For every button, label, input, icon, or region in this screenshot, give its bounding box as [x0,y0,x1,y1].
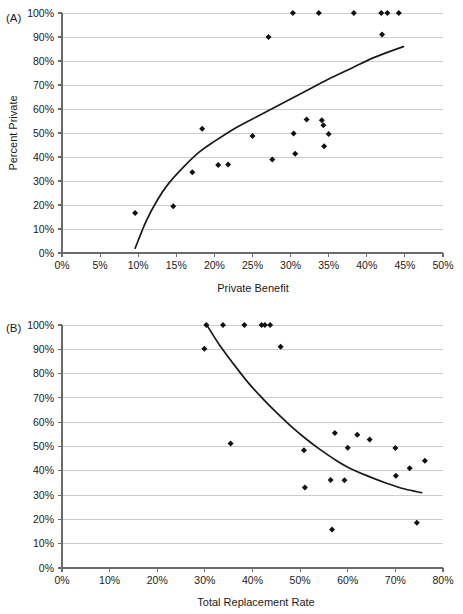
data-point-2 [189,169,195,175]
data-point-5 [225,161,231,167]
data-point-3 [228,441,234,447]
xtick-label-20: 20% [204,259,225,271]
xtick-label-10: 10% [128,259,149,271]
panel-b-trendline [207,325,422,493]
ytick-label-20: 20% [33,199,54,211]
data-point-18 [392,445,398,451]
data-point-4 [241,322,247,328]
data-point-3 [199,126,205,132]
xtick-label-50: 50% [432,259,453,271]
panel-a-xaxis-title: Private Benefit [217,282,289,294]
data-point-2 [220,322,226,328]
panel-a: 0%10%20%30%40%50%60%70%80%90%100% 0%5%10… [0,0,463,300]
panel-b-tag: (B) [6,322,22,334]
ytick-label-70: 70% [33,392,54,404]
data-point-7 [266,34,272,40]
data-point-7 [267,322,273,328]
xtick-label-20: 20% [147,574,168,586]
data-point-17 [326,131,332,137]
panel-b-datapoints [201,322,428,533]
ytick-label-80: 80% [33,367,54,379]
xtick-label-80: 80% [432,574,453,586]
data-point-13 [316,10,322,16]
ytick-label-60: 60% [33,103,54,115]
data-point-19 [393,473,399,479]
data-point-14 [341,477,347,483]
data-point-21 [414,520,420,526]
data-point-6 [262,322,268,328]
trend-curve [207,325,422,493]
xtick-label-50: 50% [290,574,311,586]
panel-b-xtick-labels: 0%10%20%30%40%50%60%70%80% [54,574,453,586]
panel-a-plot: 0%10%20%30%40%50%60%70%80%90%100% 0%5%10… [0,0,463,300]
data-point-1 [170,203,176,209]
data-point-16 [321,143,327,149]
data-point-12 [329,527,335,533]
data-point-6 [250,133,256,139]
ytick-label-50: 50% [33,440,54,452]
data-point-16 [354,432,360,438]
panel-a-trendline [135,47,403,249]
ytick-label-40: 40% [33,464,54,476]
panel-a-axes [58,13,443,257]
panel-b-axes [58,325,443,572]
xtick-label-0: 0% [54,259,69,271]
data-point-15 [320,122,326,128]
xtick-label-30: 30% [194,574,215,586]
data-point-22 [422,458,428,464]
data-point-11 [328,477,334,483]
data-point-21 [384,10,390,16]
xtick-label-10: 10% [99,574,120,586]
ytick-label-90: 90% [33,31,54,43]
data-point-9 [290,10,296,16]
xtick-label-60: 60% [337,574,358,586]
ytick-label-80: 80% [33,55,54,67]
ytick-label-30: 30% [33,175,54,187]
ytick-label-40: 40% [33,151,54,163]
data-point-11 [292,151,298,157]
xtick-label-40: 40% [242,574,263,586]
xtick-label-40: 40% [356,259,377,271]
panel-a-gridlines [62,13,443,229]
data-point-10 [291,130,297,136]
panel-a-datapoints [132,10,402,216]
trend-curve [135,47,403,249]
data-point-15 [345,445,351,451]
data-point-12 [304,117,310,123]
figure-container: 0%10%20%30%40%50%60%70%80%90%100% 0%5%10… [0,0,463,614]
data-point-17 [367,436,373,442]
ytick-label-90: 90% [33,343,54,355]
xtick-label-25: 25% [242,259,263,271]
data-point-0 [132,210,138,216]
xtick-label-35: 35% [318,259,339,271]
ytick-label-0: 0% [39,247,54,259]
data-point-4 [215,162,221,168]
xtick-label-0: 0% [54,574,69,586]
panel-b-gridlines [62,325,443,544]
ytick-label-100: 100% [27,319,54,331]
ytick-label-0: 0% [39,562,54,574]
data-point-18 [351,10,357,16]
xtick-label-45: 45% [394,259,415,271]
ytick-label-10: 10% [33,537,54,549]
data-point-10 [302,485,308,491]
xtick-label-5: 5% [93,259,108,271]
data-point-22 [396,10,402,16]
panel-b: 0%10%20%30%40%50%60%70%80%90%100% 0%10%2… [0,300,463,614]
ytick-label-70: 70% [33,79,54,91]
ytick-label-50: 50% [33,127,54,139]
ytick-label-10: 10% [33,223,54,235]
xtick-label-70: 70% [385,574,406,586]
panel-a-xtick-labels: 0%5%10%15%20%25%30%35%40%45%50% [54,259,453,271]
data-point-13 [332,430,338,436]
panel-a-ytick-labels: 0%10%20%30%40%50%60%70%80%90%100% [27,7,54,259]
xtick-label-30: 30% [280,259,301,271]
ytick-label-100: 100% [27,7,54,19]
data-point-14 [319,117,325,123]
panel-a-tag: (A) [6,12,22,24]
ytick-label-30: 30% [33,489,54,501]
panel-a-yaxis-title: Percent Private [7,95,19,170]
data-point-19 [378,10,384,16]
panel-b-xaxis-title: Total Replacement Rate [197,596,314,608]
panel-b-ytick-labels: 0%10%20%30%40%50%60%70%80%90%100% [27,319,54,574]
